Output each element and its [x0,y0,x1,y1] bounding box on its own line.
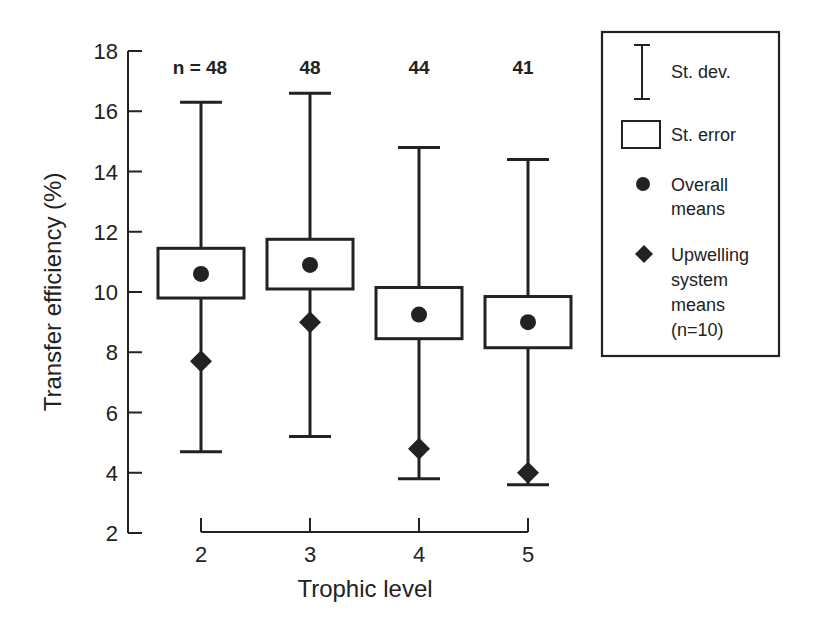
legend-label: means [671,295,725,315]
y-tick-label: 8 [106,340,118,365]
overall-mean-marker [302,257,318,273]
legend-label: Overall [671,175,728,195]
sample-size-labels: n = 48484441 [173,57,534,78]
plot-area [158,93,571,485]
upwelling-mean-diamond [299,311,321,333]
legend-label: Upwelling [671,245,749,265]
x-axis: 2345 [195,518,534,567]
box-group-trophic-3 [267,93,353,436]
y-tick-label: 12 [94,220,118,245]
overall-mean-marker [193,266,209,282]
upwelling-mean-diamond [190,350,212,372]
legend-label: St. dev. [671,62,731,82]
overall-mean-marker [520,314,536,330]
y-axis-title: Transfer efficiency (%) [39,173,66,412]
box-group-trophic-5 [485,159,571,484]
x-tick-label: 3 [304,542,316,567]
sample-size-label: n = 48 [173,57,227,78]
legend: St. dev.St. errorOverallmeansUpwellingsy… [602,32,779,356]
y-tick-label: 16 [94,99,118,124]
x-tick-label: 2 [195,542,207,567]
legend-label: St. error [671,125,736,145]
overall-mean-marker [411,307,427,323]
y-tick-label: 2 [106,521,118,546]
y-axis: 24681012141618 [94,39,142,546]
sample-size-label: 41 [512,57,534,78]
x-tick-label: 4 [413,542,425,567]
box-group-trophic-2 [158,102,244,451]
sample-size-label: 44 [408,57,430,78]
legend-item-st-error: St. error [622,121,736,148]
x-axis-title: Trophic level [297,575,432,602]
legend-label: (n=10) [671,320,724,340]
box-group-trophic-4 [376,147,462,478]
x-tick-label: 5 [522,542,534,567]
y-tick-label: 4 [106,461,118,486]
upwelling-mean-diamond [408,438,430,460]
legend-label: system [671,270,728,290]
y-tick-label: 18 [94,39,118,64]
box-plot-chart: 24681012141618 2345 Transfer efficiency … [0,0,821,637]
y-tick-label: 14 [94,160,118,185]
y-tick-label: 6 [106,401,118,426]
circle-marker-icon [636,177,650,191]
sample-size-label: 48 [299,57,320,78]
upwelling-mean-diamond [517,462,539,484]
legend-label: means [671,199,725,219]
st-error-icon [622,121,660,148]
y-tick-label: 10 [94,280,118,305]
